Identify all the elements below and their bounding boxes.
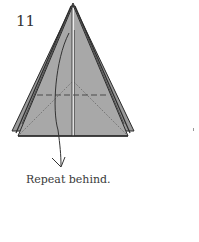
origami-diagram bbox=[0, 0, 199, 242]
arrow-head-icon bbox=[52, 157, 65, 167]
caption: Repeat behind. bbox=[26, 174, 136, 185]
stray-mark bbox=[193, 128, 194, 131]
